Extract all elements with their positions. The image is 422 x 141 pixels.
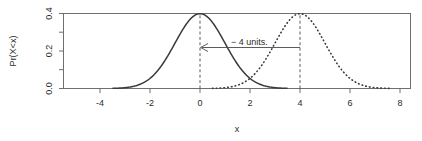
y-axis-tick-labels: 0.0 0.2 0.4 xyxy=(44,7,54,95)
x-axis-tick-labels: -4 -2 0 2 4 6 8 xyxy=(96,98,403,108)
y-tick-label-2: 0.4 xyxy=(44,7,54,20)
x-axis-label: x xyxy=(235,124,240,134)
x-tick-label-1: -2 xyxy=(146,98,154,108)
x-tick-label-2: 0 xyxy=(197,98,202,108)
y-axis-ticks xyxy=(59,14,64,89)
x-axis-ticks xyxy=(100,89,400,94)
x-tick-label-0: -4 xyxy=(96,98,104,108)
x-tick-label-4: 4 xyxy=(297,98,302,108)
y-tick-label-0: 0.0 xyxy=(44,82,54,95)
y-axis-label: Pr(X<x) xyxy=(8,36,18,67)
x-tick-label-6: 8 xyxy=(397,98,402,108)
plot-frame xyxy=(64,14,411,89)
x-tick-label-5: 6 xyxy=(347,98,352,108)
shift-annotation-label: − 4 units. xyxy=(231,37,268,47)
dotted-normal-curve xyxy=(213,14,391,89)
normal-distribution-shift-chart: 0.0 0.2 0.4 Pr(X<x) -4 -2 0 2 4 6 8 x xyxy=(0,0,422,141)
chart-screenshot: 0.0 0.2 0.4 Pr(X<x) -4 -2 0 2 4 6 8 x xyxy=(0,0,422,141)
y-tick-label-1: 0.2 xyxy=(44,45,54,58)
x-tick-label-3: 2 xyxy=(247,98,252,108)
